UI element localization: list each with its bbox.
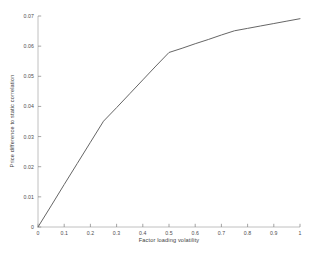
x-tick-label: 0.7 [218, 230, 226, 236]
figure-canvas: 00.10.20.30.40.50.60.70.80.91 00.010.020… [0, 0, 318, 256]
y-tick-label: 0 [2, 224, 34, 230]
chart-svg [38, 16, 300, 227]
x-tick-label: 0.1 [60, 230, 68, 236]
x-tick-label: 0.4 [139, 230, 147, 236]
y-tick-label: 0.01 [2, 194, 34, 200]
y-tick-label: 0.06 [2, 43, 34, 49]
data-line-0 [38, 19, 300, 227]
x-tick-label: 0.8 [244, 230, 252, 236]
x-tick-label: 0.6 [191, 230, 199, 236]
y-tick-label: 0.05 [2, 73, 34, 79]
x-tick-label: 0.5 [165, 230, 173, 236]
y-tick-label: 0.03 [2, 134, 34, 140]
y-tick-label: 0.02 [2, 164, 34, 170]
y-axis [38, 16, 41, 227]
x-tick-label: 0.9 [270, 230, 278, 236]
x-tick-label: 0 [37, 230, 40, 236]
y-tick-label: 0.07 [2, 13, 34, 19]
x-axis-title: Factor loading volatility [139, 237, 200, 243]
y-axis-title: Price difference to static correlation [9, 75, 15, 168]
data-series-group [38, 19, 300, 227]
plot-area [38, 16, 300, 227]
x-tick-label: 0.3 [113, 230, 121, 236]
y-tick-label: 0.04 [2, 103, 34, 109]
x-axis [38, 224, 300, 227]
x-tick-label: 1 [299, 230, 302, 236]
x-tick-label: 0.2 [87, 230, 95, 236]
